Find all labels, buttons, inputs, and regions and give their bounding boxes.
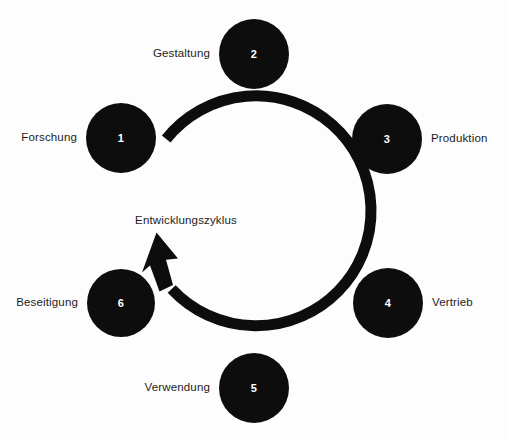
node-2-label: Gestaltung: [153, 48, 210, 60]
node-6-number: 6: [118, 298, 124, 309]
cycle-node-6[interactable]: 6 Beseitigung: [87, 269, 155, 337]
node-1-number: 1: [118, 133, 124, 144]
node-3-number: 3: [384, 134, 390, 145]
node-5-circle[interactable]: 5: [219, 353, 289, 423]
node-3-label: Produktion: [431, 133, 487, 145]
node-2-number: 2: [251, 49, 257, 60]
cycle-node-2[interactable]: 2 Gestaltung: [219, 19, 289, 89]
node-5-label: Verwendung: [145, 382, 210, 394]
node-4-circle[interactable]: 4: [353, 268, 423, 338]
node-2-circle[interactable]: 2: [219, 19, 289, 89]
cycle-arrow: [142, 96, 371, 326]
node-6-label: Beseitigung: [16, 297, 78, 309]
node-6-circle[interactable]: 6: [87, 269, 155, 337]
node-1-circle[interactable]: 1: [86, 103, 156, 173]
node-3-circle[interactable]: 3: [352, 104, 422, 174]
node-5-number: 5: [251, 383, 257, 394]
node-4-label: Vertrieb: [432, 297, 473, 309]
node-1-label: Forschung: [21, 132, 77, 144]
cycle-node-3[interactable]: 3 Produktion: [352, 104, 422, 174]
cycle-node-5[interactable]: 5 Verwendung: [219, 353, 289, 423]
cycle-diagram: Entwicklungszyklus 1 Forschung 2 Gestalt…: [0, 0, 508, 440]
center-label: Entwicklungszyklus: [135, 215, 237, 227]
cycle-node-4[interactable]: 4 Vertrieb: [353, 268, 423, 338]
cycle-node-1[interactable]: 1 Forschung: [86, 103, 156, 173]
node-4-number: 4: [385, 298, 391, 309]
